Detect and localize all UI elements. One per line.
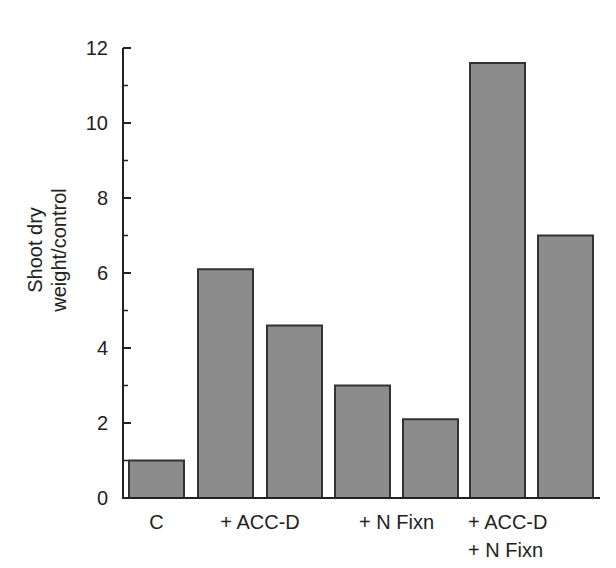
y-tick-label: 10 [86,112,108,134]
y-axis-title: Shoot dryweight/control [24,188,70,312]
bar-chart: 024681012 C+ ACC-D+ N Fixn+ ACC-D+ N Fix… [0,0,616,568]
bar-5 [403,419,458,498]
x-category-label: C [149,511,163,533]
bars-group [129,63,593,498]
bar-3 [267,326,322,499]
y-tick-label: 2 [97,412,108,434]
y-tick-label: 4 [97,337,108,359]
x-category-label: + N Fixn [468,539,543,561]
y-tick-label: 0 [97,487,108,509]
y-axis-title-line: weight/control [48,188,70,312]
x-axis-labels: C+ ACC-D+ N Fixn+ ACC-D+ N Fixn [149,511,547,561]
bar-6 [470,63,525,498]
bar-2 [198,269,253,498]
x-category-label: + ACC-D [220,511,299,533]
y-tick-label: 8 [97,187,108,209]
y-tick-label: 12 [86,37,108,59]
bar-4 [335,386,390,499]
x-category-label: + ACC-D [468,511,547,533]
y-axis-title-line: Shoot dry [24,207,46,293]
y-tick-label: 6 [97,262,108,284]
x-category-label: + N Fixn [359,511,434,533]
y-axis-ticks: 024681012 [86,37,131,509]
bar-7 [538,236,593,499]
bar-1 [129,461,184,499]
